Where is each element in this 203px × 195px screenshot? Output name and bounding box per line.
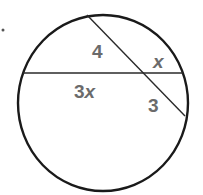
label-left-coefficient: 3 <box>74 81 85 102</box>
label-left-horizontal: 3x <box>74 81 97 102</box>
marker-dot <box>2 29 5 32</box>
label-right-horizontal: x <box>152 51 165 72</box>
label-left-variable: x <box>84 81 97 102</box>
label-upper-diagonal: 4 <box>92 41 103 62</box>
label-lower-diagonal: 3 <box>148 95 159 116</box>
diagonal-chord <box>87 15 185 116</box>
circle-outline <box>18 15 188 191</box>
circle-diagram: 4 x 3x 3 <box>0 0 203 195</box>
